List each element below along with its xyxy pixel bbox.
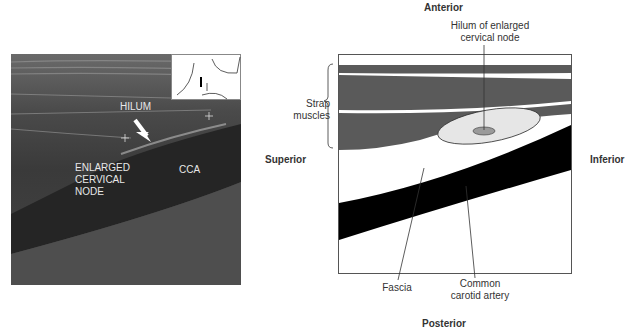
diagram-overlay: [0, 0, 633, 334]
